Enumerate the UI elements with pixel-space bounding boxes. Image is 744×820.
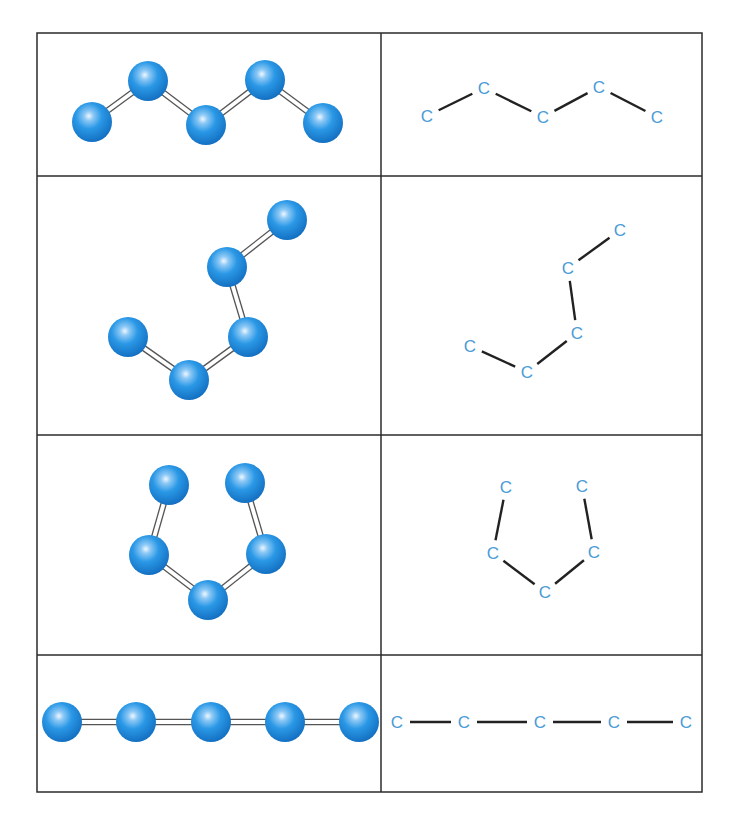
carbon-atom-ball — [149, 465, 189, 505]
carbon-atom-ball — [267, 200, 307, 240]
carbon-atom-ball — [108, 317, 148, 357]
single-bond-line — [496, 94, 532, 112]
carbon-label: C — [534, 713, 546, 732]
grid-border — [37, 33, 702, 792]
carbon-atom-ball — [42, 702, 82, 742]
carbon-atom-ball — [188, 580, 228, 620]
carbon-label: C — [521, 363, 533, 382]
single-bond-line — [578, 238, 609, 261]
carbon-label: C — [588, 543, 600, 562]
single-bond-line — [439, 94, 473, 111]
carbon-label: C — [614, 221, 626, 240]
carbon-label: C — [680, 713, 692, 732]
carbon-atom-ball — [339, 702, 379, 742]
carbon-label: C — [562, 259, 574, 278]
atoms — [42, 60, 379, 742]
carbon-atom-ball — [207, 247, 247, 287]
single-bond-line — [570, 281, 575, 320]
carbon-label: C — [608, 713, 620, 732]
carbon-label: C — [464, 337, 476, 356]
bonds — [62, 78, 359, 725]
single-bond-line — [554, 93, 587, 111]
carbon-label: C — [593, 78, 605, 97]
carbon-atom-ball — [186, 105, 226, 145]
single-bond-line — [537, 341, 566, 364]
carbon-chain-diagram: CCCCCCCCCCCCCCCCCCCC — [0, 0, 744, 820]
single-bond-line — [503, 561, 534, 584]
carbon-label: C — [458, 713, 470, 732]
carbon-atom-ball — [128, 61, 168, 101]
single-bond-line — [482, 351, 515, 366]
carbon-label: C — [500, 478, 512, 497]
carbon-atom-ball — [265, 702, 305, 742]
carbon-label: C — [576, 477, 588, 496]
diagram-canvas: CCCCCCCCCCCCCCCCCCCC — [0, 0, 744, 820]
table-grid — [37, 33, 702, 792]
carbon-label: C — [651, 108, 663, 127]
carbon-atom-ball — [72, 102, 112, 142]
carbon-label: C — [421, 107, 433, 126]
carbon-atom-ball — [245, 60, 285, 100]
carbon-label: C — [571, 324, 583, 343]
carbon-atom-ball — [228, 317, 268, 357]
carbon-atom-ball — [191, 702, 231, 742]
single-bond-line — [555, 560, 584, 584]
carbon-label: C — [487, 544, 499, 563]
carbon-atom-ball — [116, 702, 156, 742]
carbon-atom-ball — [129, 535, 169, 575]
carbon-label: C — [537, 108, 549, 127]
carbon-label: C — [478, 79, 490, 98]
carbon-atom-ball — [225, 463, 265, 503]
carbon-atom-ball — [169, 360, 209, 400]
carbon-atom-ball — [303, 103, 343, 143]
single-bond-line — [496, 500, 504, 540]
single-bond-line — [584, 499, 591, 539]
carbon-label: C — [539, 583, 551, 602]
single-bond-line — [611, 93, 646, 111]
carbon-label: C — [391, 713, 403, 732]
carbon-atom-ball — [246, 534, 286, 574]
